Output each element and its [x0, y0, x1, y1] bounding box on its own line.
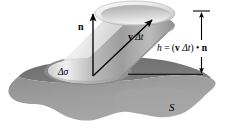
- label-height-equation: h = (v Δt) • n: [157, 44, 207, 54]
- height-eq-dt: Δt: [180, 43, 191, 53]
- label-area-element: Δσ: [58, 68, 68, 78]
- diagram-canvas: [0, 0, 235, 132]
- height-eq-n: n: [199, 43, 207, 53]
- height-eq-equals: = (: [162, 43, 175, 53]
- flux-tube-diagram: n v Δt Δσ S h = (v Δt) • n: [0, 0, 235, 132]
- surface-sheen: [113, 87, 202, 116]
- label-surface-S: S: [169, 102, 175, 113]
- label-vdt-dt: Δt: [133, 32, 144, 42]
- flux-tube-top-cap: [95, 1, 175, 26]
- label-velocity-displacement: v Δt: [128, 33, 143, 43]
- label-normal-vector: n: [78, 22, 84, 32]
